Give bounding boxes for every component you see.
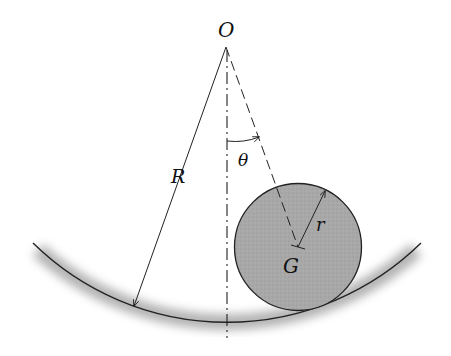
pendulum-cylinder-diagram: O R θ r G [0,0,451,356]
label-O: O [218,18,234,42]
label-R: R [170,165,185,187]
label-r: r [316,214,326,235]
label-G: G [283,254,299,278]
label-theta: θ [238,150,248,170]
theta-angle-arc [227,137,259,142]
